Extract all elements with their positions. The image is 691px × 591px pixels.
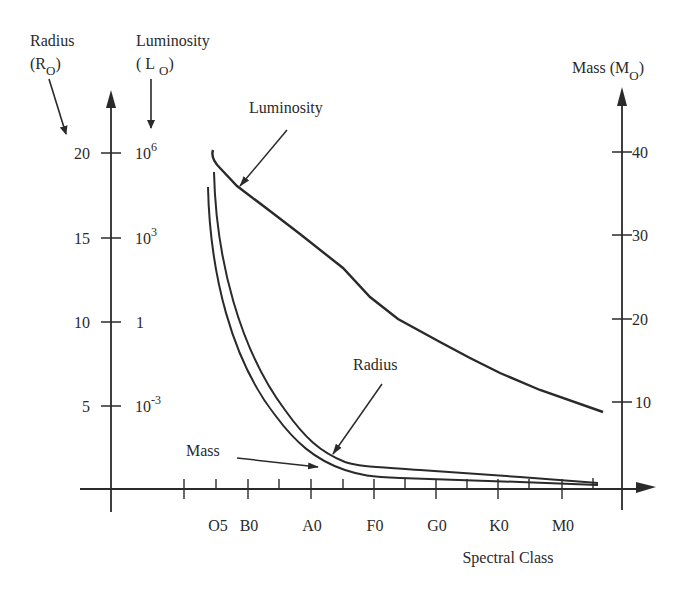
svg-text:B0: B0 — [240, 517, 259, 534]
svg-text:106: 106 — [135, 140, 157, 162]
svg-text:20: 20 — [74, 145, 90, 162]
radius-pointer-arrow-icon — [49, 79, 66, 134]
svg-text:10-3: 10-3 — [135, 393, 161, 415]
radius-tick-labels: 20 15 10 5 — [74, 145, 90, 415]
spectral-class-chart: Radius (RO) Luminosity ( LO) 20 15 10 5 … — [0, 0, 691, 591]
svg-text:G0: G0 — [427, 517, 447, 534]
radius-annotation: Radius — [333, 356, 397, 454]
svg-text:103: 103 — [135, 225, 157, 247]
svg-text:10: 10 — [74, 314, 90, 331]
right-axis-arrow-icon — [617, 87, 627, 106]
svg-text:15: 15 — [74, 230, 90, 247]
luminosity-axis-label: Luminosity — [136, 32, 210, 50]
radius-unit-label: (RO) — [30, 55, 61, 78]
svg-text:40: 40 — [632, 144, 648, 161]
luminosity-annotation-arrow-icon — [240, 130, 287, 186]
radius-annotation-label: Radius — [353, 356, 397, 373]
mass-annotation: Mass — [186, 442, 318, 467]
luminosity-annotation: Luminosity — [240, 99, 323, 186]
x-axis-arrow-icon — [636, 482, 656, 493]
luminosity-curve — [212, 150, 603, 412]
luminosity-annotation-label: Luminosity — [249, 99, 323, 117]
mass-annotation-arrow-icon — [237, 458, 318, 467]
svg-text:1: 1 — [136, 314, 144, 331]
svg-text:M0: M0 — [552, 517, 574, 534]
mass-tick-labels: 40 30 20 10 — [632, 144, 651, 411]
mass-annotation-label: Mass — [186, 442, 220, 459]
svg-text:F0: F0 — [367, 517, 384, 534]
svg-text:O5: O5 — [208, 517, 228, 534]
luminosity-axis-title: Luminosity ( LO) — [136, 32, 210, 128]
radius-curve — [214, 172, 598, 483]
x-axis-category-labels: O5 B0 A0 F0 G0 K0 M0 — [208, 517, 574, 534]
luminosity-tick-labels: 106 103 1 10-3 — [135, 140, 161, 415]
x-axis-title: Spectral Class — [462, 549, 553, 567]
luminosity-unit-label: ( LO) — [136, 55, 174, 78]
svg-text:5: 5 — [82, 398, 90, 415]
radius-axis-title: Radius (RO) — [30, 32, 74, 134]
mass-curve — [208, 187, 598, 485]
radius-annotation-arrow-icon — [333, 384, 382, 454]
radius-axis-label: Radius — [30, 32, 74, 49]
mass-axis-label: Mass (MO) — [572, 59, 644, 83]
svg-text:K0: K0 — [489, 517, 509, 534]
left-axis-arrow-icon — [106, 90, 116, 108]
svg-text:20: 20 — [632, 311, 648, 328]
svg-text:30: 30 — [632, 227, 648, 244]
svg-text:10: 10 — [635, 394, 651, 411]
svg-text:A0: A0 — [302, 517, 322, 534]
